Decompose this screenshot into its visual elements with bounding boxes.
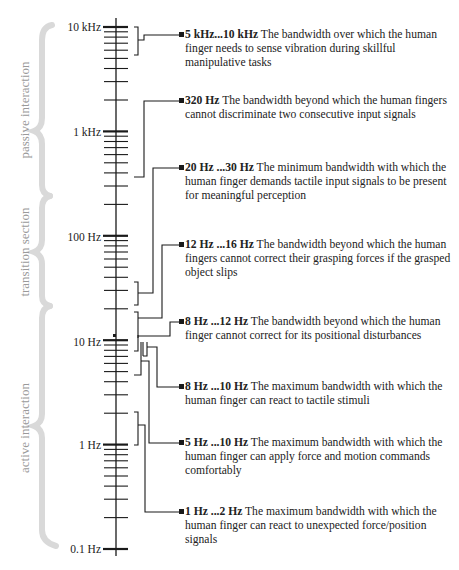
annotation-320hz: 320 Hz The bandwidth beyond which the hu… — [185, 94, 455, 122]
axis-label-10khz: 10 kHz — [67, 21, 101, 33]
brace-active — [34, 306, 56, 546]
region-label-passive: passive interaction — [17, 61, 32, 159]
axis-label-10hz: 10 Hz — [73, 336, 101, 348]
annotation-5khz-10khz: 5 kHz...10 kHz The bandwidth over which … — [185, 28, 455, 71]
annotation-1hz-2hz: 1 Hz ...2 Hz The maximum bandwidth with … — [185, 505, 455, 548]
axis-labels: 10 kHz 1 kHz 100 Hz 10 Hz 1 Hz 0.1 Hz — [67, 21, 101, 555]
annotation-12hz-16hz: 12 Hz ...16 Hz The bandwidth beyond whic… — [185, 238, 455, 281]
axis-label-0-1hz: 0.1 Hz — [70, 543, 101, 555]
log-axis — [103, 18, 128, 556]
region-label-transition: transition section — [17, 207, 32, 297]
connectors — [134, 27, 180, 512]
frequency-scale-diagram: passive interaction transition section a… — [0, 0, 459, 570]
axis-label-1hz: 1 Hz — [79, 439, 101, 451]
annotation-5hz-10hz: 5 Hz ...10 Hz The maximum bandwidth with… — [185, 436, 455, 479]
annotation-range: 12 Hz ...16 Hz — [185, 238, 254, 251]
region-braces — [34, 25, 56, 546]
annotation-range: 8 Hz ...10 Hz — [185, 380, 248, 393]
annotation-range: 20 Hz ...30 Hz — [185, 161, 254, 174]
brace-passive — [34, 25, 52, 196]
brace-transition — [34, 196, 50, 306]
annotation-8hz-12hz: 8 Hz ...12 Hz The bandwidth beyond which… — [185, 315, 455, 343]
annotation-range: 320 Hz — [185, 94, 219, 107]
annotation-8hz-10hz: 8 Hz ...10 Hz The maximum bandwidth with… — [185, 380, 455, 408]
annotation-range: 5 Hz ...10 Hz — [185, 436, 248, 449]
annotation-text: The bandwidth beyond which the human fin… — [185, 94, 447, 121]
annotation-20hz-30hz: 20 Hz ...30 Hz The minimum bandwidth wit… — [185, 161, 455, 204]
axis-label-1khz: 1 kHz — [73, 126, 101, 138]
annotation-range: 5 kHz...10 kHz — [185, 28, 258, 41]
region-label-active: active interaction — [17, 383, 32, 473]
annotation-range: 8 Hz ...12 Hz — [185, 315, 248, 328]
axis-label-100hz: 100 Hz — [67, 231, 101, 243]
annotation-range: 1 Hz ...2 Hz — [185, 505, 242, 518]
